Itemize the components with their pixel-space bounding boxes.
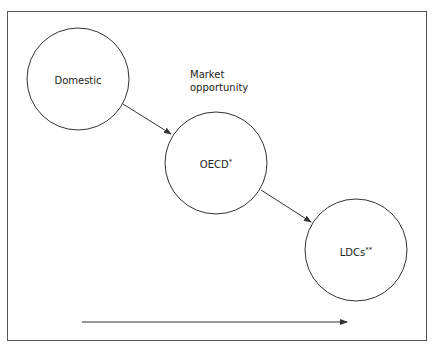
annotation-line-1: Market bbox=[190, 68, 248, 81]
node-domestic-label: Domestic bbox=[54, 75, 101, 86]
footnote-marker: ** bbox=[365, 246, 372, 254]
node-oecd-label: OECD* bbox=[200, 158, 232, 170]
footnote-marker: * bbox=[229, 158, 233, 166]
node-label-text: Domestic bbox=[54, 75, 101, 86]
edge-domestic-oecd bbox=[123, 104, 171, 134]
edge-oecd-ldcs bbox=[261, 190, 311, 222]
node-label-text: LDCs bbox=[340, 247, 365, 258]
market-opportunity-annotation: Market opportunity bbox=[190, 68, 248, 94]
diagram-canvas bbox=[0, 0, 435, 349]
node-label-text: OECD bbox=[200, 159, 229, 170]
annotation-line-2: opportunity bbox=[190, 81, 248, 94]
node-ldcs-label: LDCs** bbox=[340, 246, 372, 258]
